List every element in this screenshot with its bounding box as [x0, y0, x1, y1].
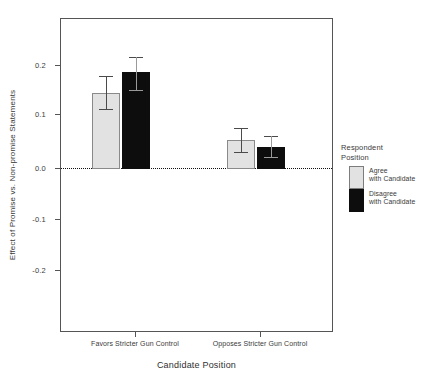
x-axis-title: Candidate Position — [60, 360, 333, 370]
error-cap-bottom — [99, 109, 113, 110]
plot-inner: 0.2 0.1 0.0 -0.1 -0.2 — [61, 19, 332, 331]
legend: Respondent Position Agree with Candidate… — [341, 143, 433, 212]
legend-label-disagree-line2: with Candidate — [369, 198, 415, 206]
y-tick-label-0: 0.2 — [35, 61, 46, 70]
legend-title-line1: Respondent — [341, 143, 433, 153]
legend-swatch-agree — [349, 166, 364, 189]
y-tick-label-2: 0.0 — [35, 164, 46, 173]
y-tick-mark-4: -0.2 — [55, 270, 61, 271]
legend-title-line2: Position — [341, 153, 433, 163]
legend-label-agree-line1: Agree — [369, 167, 415, 175]
error-cap-bottom — [129, 90, 143, 91]
error-cap-bottom — [234, 152, 248, 153]
legend-swatch-disagree — [349, 189, 364, 212]
y-tick-label-3: -0.1 — [32, 215, 46, 224]
x-tick-mark-0 — [135, 332, 136, 337]
error-stem — [271, 136, 272, 158]
error-cap-bottom — [264, 157, 278, 158]
legend-label-disagree-line1: Disagree — [369, 190, 415, 198]
legend-label-disagree: Disagree with Candidate — [369, 190, 415, 207]
error-bar-opposes-disagree — [257, 136, 285, 158]
x-tick-mark-1 — [260, 332, 261, 337]
x-category-label-opposes: Opposes Stricter Gun Control — [213, 340, 308, 347]
error-stem — [106, 76, 107, 110]
y-tick-label-1: 0.1 — [35, 110, 46, 119]
y-tick-label-4: -0.2 — [32, 266, 46, 275]
error-stem — [241, 128, 242, 153]
y-tick-mark-0: 0.2 — [55, 65, 61, 66]
legend-title: Respondent Position — [341, 143, 433, 162]
legend-label-agree: Agree with Candidate — [369, 167, 415, 184]
error-bar-opposes-agree — [227, 128, 255, 153]
y-tick-mark-1: 0.1 — [55, 114, 61, 115]
error-bar-favors-agree — [92, 76, 120, 110]
y-axis-title: Effect of Promise vs. Non-promise Statem… — [8, 18, 20, 332]
error-bar-favors-disagree — [122, 57, 150, 91]
legend-label-agree-line2: with Candidate — [369, 175, 415, 183]
bar-chart-figure: Effect of Promise vs. Non-promise Statem… — [0, 0, 433, 380]
x-category-label-favors: Favors Stricter Gun Control — [91, 340, 179, 347]
y-tick-mark-3: -0.1 — [55, 219, 61, 220]
plot-area: 0.2 0.1 0.0 -0.1 -0.2 — [60, 18, 333, 332]
error-stem — [136, 57, 137, 91]
legend-entries: Agree with Candidate Disagree with Candi… — [341, 166, 433, 212]
